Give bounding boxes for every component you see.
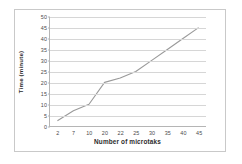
- y-tick-mark: [48, 127, 50, 128]
- y-tick-mark: [48, 116, 50, 117]
- x-tick-label: 22: [118, 130, 124, 136]
- x-tick-label: 20: [102, 130, 108, 136]
- x-tick-label: 45: [196, 130, 202, 136]
- y-tick-label: 5: [44, 113, 47, 119]
- y-tick-mark: [48, 50, 50, 51]
- gridline: [50, 61, 206, 62]
- y-tick-label: 45: [41, 25, 47, 31]
- gridline: [50, 94, 206, 95]
- y-tick-label: 0: [44, 124, 47, 130]
- gridline: [50, 116, 206, 117]
- y-axis-title: Time (minute): [17, 51, 24, 93]
- gridline: [50, 28, 206, 29]
- x-axis-title: Number of microtaks: [49, 138, 206, 145]
- y-tick-label: 40: [41, 36, 47, 42]
- y-tick-mark: [48, 61, 50, 62]
- gridline: [50, 50, 206, 51]
- gridline: [50, 39, 206, 40]
- gridline: [50, 83, 206, 84]
- y-tick-mark: [48, 17, 50, 18]
- y-tick-label: 15: [41, 91, 47, 97]
- y-tick-mark: [48, 72, 50, 73]
- chart-container: 05101520253035404550271020222530354045 T…: [14, 9, 226, 152]
- y-tick-label: 50: [41, 14, 47, 20]
- y-tick-mark: [48, 28, 50, 29]
- y-tick-mark: [48, 39, 50, 40]
- gridline: [50, 17, 206, 18]
- x-tick-label: 25: [133, 130, 139, 136]
- y-tick-label: 25: [41, 69, 47, 75]
- x-tick-label: 35: [165, 130, 171, 136]
- y-tick-label: 20: [41, 80, 47, 86]
- x-tick-label: 10: [86, 130, 92, 136]
- x-tick-label: 40: [180, 130, 186, 136]
- chart-plot-wrapper: 05101520253035404550271020222530354045 T…: [15, 10, 227, 153]
- y-tick-label: 10: [41, 102, 47, 108]
- y-tick-mark: [48, 105, 50, 106]
- y-tick-label: 35: [41, 47, 47, 53]
- plot-area: 05101520253035404550271020222530354045: [49, 17, 206, 127]
- y-tick-mark: [48, 94, 50, 95]
- y-tick-mark: [48, 83, 50, 84]
- x-tick-label: 2: [56, 130, 59, 136]
- gridline: [50, 72, 206, 73]
- gridline: [50, 105, 206, 106]
- y-tick-label: 30: [41, 58, 47, 64]
- x-tick-label: 7: [72, 130, 75, 136]
- x-tick-label: 30: [149, 130, 155, 136]
